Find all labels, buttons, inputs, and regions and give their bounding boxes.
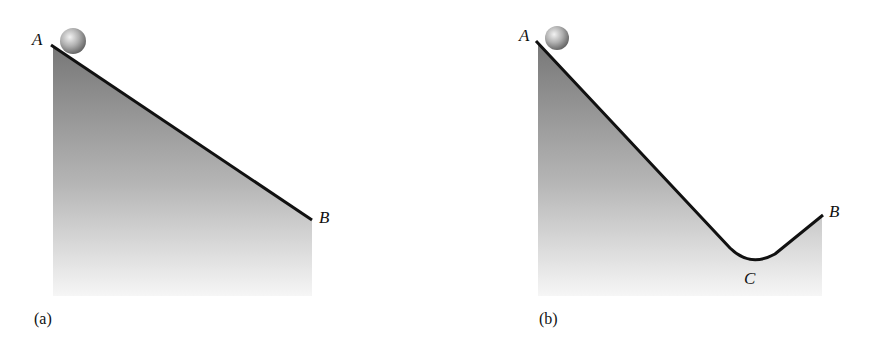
panel-a: A B (a) [0, 0, 436, 360]
point-label-b-B: B [829, 203, 839, 220]
panel-b: A B C (b) [436, 0, 872, 360]
ball-b [545, 26, 569, 50]
incline-diagram-b [436, 0, 872, 360]
ground-fill-b [538, 42, 822, 296]
incline-diagram-a [0, 0, 436, 360]
ball-a [60, 28, 86, 54]
point-label-a-B: B [319, 209, 329, 226]
point-label-b-A: A [519, 27, 529, 44]
point-label-a-A: A [32, 31, 42, 48]
caption-b: (b) [539, 311, 558, 327]
caption-a: (a) [34, 311, 52, 327]
ground-fill-a [53, 46, 312, 296]
point-label-b-C: C [744, 270, 755, 287]
